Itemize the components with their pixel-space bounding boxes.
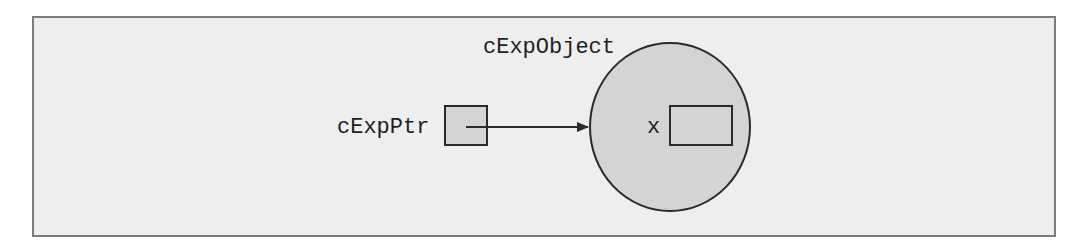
member-label: x	[647, 115, 660, 140]
pointer-box	[445, 106, 487, 145]
diagram-canvas: cExpPtr cExpObject x	[0, 0, 1081, 247]
object-label: cExpObject	[483, 35, 615, 60]
member-box	[670, 106, 732, 145]
pointer-label: cExpPtr	[337, 115, 429, 140]
